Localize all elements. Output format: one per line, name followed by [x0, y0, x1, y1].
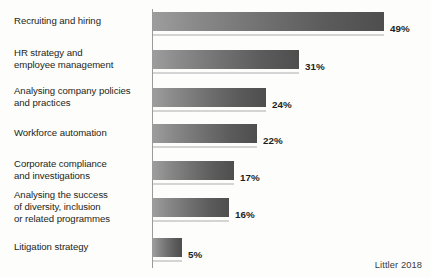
bar-container: [153, 124, 257, 143]
bar-value-label: 16%: [235, 205, 255, 224]
bar-value-label: 49%: [390, 19, 410, 38]
bar-shadow: [153, 110, 266, 112]
bar-value-label: 17%: [240, 168, 260, 187]
bar-shadow: [153, 34, 384, 36]
category-label: Corporate compliance and investigations: [14, 158, 150, 182]
category-label: Litigation strategy: [14, 241, 150, 253]
bar-value-label: 22%: [263, 131, 283, 150]
category-label: Recruiting and hiring: [14, 15, 150, 27]
category-label: Analysing company policies and practices: [14, 85, 150, 109]
bar: [153, 198, 229, 217]
category-label: HR strategy and employee management: [14, 47, 150, 71]
plot-area: Recruiting and hiring 49% HR strategy an…: [0, 0, 431, 277]
bar-container: [153, 198, 229, 217]
bar-shadow: [153, 260, 182, 262]
bar-value-label: 31%: [305, 57, 325, 76]
category-label: Analysing the success of diversity, incl…: [14, 189, 150, 225]
bar-container: [153, 50, 299, 69]
bar: [153, 124, 257, 143]
bar: [153, 238, 182, 257]
bar-container: [153, 161, 234, 180]
bar-chart: Recruiting and hiring 49% HR strategy an…: [0, 0, 431, 277]
bar-container: [153, 238, 182, 257]
bar: [153, 12, 384, 31]
bar-value-label: 5%: [188, 245, 202, 264]
category-label: Workforce automation: [14, 127, 150, 139]
source-attribution: Littler 2018: [375, 260, 422, 270]
bar-shadow: [153, 220, 229, 222]
bar-shadow: [153, 183, 234, 185]
bar-container: [153, 88, 266, 107]
bar-shadow: [153, 72, 299, 74]
bar-container: [153, 12, 384, 31]
bar-shadow: [153, 146, 257, 148]
bar: [153, 50, 299, 69]
bar: [153, 88, 266, 107]
bar-value-label: 24%: [272, 95, 292, 114]
bar: [153, 161, 234, 180]
